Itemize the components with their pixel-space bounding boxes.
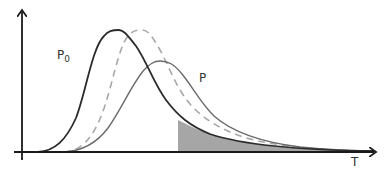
density-diagram: P0 P T [0,0,385,173]
shaded-tail-region [178,120,374,152]
x-axis-label: T [350,155,359,169]
label-p: P [199,71,206,85]
label-p0: P0 [57,48,70,64]
curve-shifted-p0 [64,30,374,152]
